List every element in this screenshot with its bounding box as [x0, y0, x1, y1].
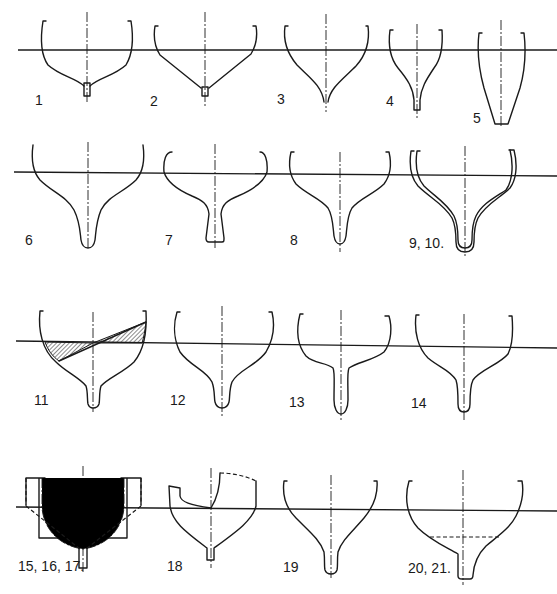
figure-label: 11: [34, 392, 49, 408]
figure-label: 1: [35, 92, 43, 108]
hull-outline: [154, 26, 257, 88]
figure-2: 2: [150, 12, 257, 109]
hull-outline: [478, 33, 525, 124]
hull-outline: [284, 26, 368, 102]
row-3: 11 12 13 14: [16, 306, 557, 420]
figure-label: 6: [25, 232, 33, 248]
figure-20-21: 20, 21.: [407, 470, 523, 585]
figure-15-16-17: 15, 16, 17.: [18, 466, 141, 574]
figure-5: 5: [473, 20, 525, 128]
hull-outline-10: [416, 150, 512, 248]
hull-outline: [164, 152, 267, 242]
figure-7: 7: [164, 144, 267, 248]
figure-8: 8: [290, 152, 391, 252]
figure-label: 2: [150, 93, 158, 109]
figure-12: 12: [170, 306, 273, 416]
figure-label: 5: [473, 110, 481, 126]
figure-label: 12: [170, 392, 186, 408]
deck-edge-dashed: [220, 473, 256, 481]
figure-11: 11: [34, 311, 146, 412]
diagram-canvas: 1 2 3 4 5: [0, 0, 557, 594]
figure-label: 7: [165, 232, 173, 248]
figure-label: 18: [167, 558, 183, 574]
waterline-row-2: [14, 172, 557, 176]
figure-14: 14: [411, 314, 513, 420]
figure-label: 19: [283, 559, 299, 575]
figure-9-10: 9, 10.: [409, 146, 516, 258]
figure-label: 8: [290, 232, 298, 248]
hull-outline: [175, 312, 274, 408]
figure-label: 14: [411, 395, 427, 411]
hull-outline: [389, 30, 442, 110]
figure-label: 4: [386, 93, 394, 109]
hull-outline: [298, 314, 391, 414]
row-4: 15, 16, 17. 18 19 20, 21.: [16, 466, 557, 585]
row-1: 1 2 3 4 5: [18, 12, 557, 128]
figure-label: 20, 21.: [408, 560, 451, 576]
figure-18: 18: [167, 468, 256, 574]
figure-label: 15, 16, 17.: [18, 558, 84, 574]
figure-19: 19: [283, 475, 377, 578]
figure-label: 3: [277, 91, 285, 107]
figure-6: 6: [25, 142, 144, 250]
figure-label: 9, 10.: [409, 235, 444, 251]
hull-sections-diagram: 1 2 3 4 5: [0, 0, 557, 594]
figure-1: 1: [35, 12, 132, 108]
row-2: 6 7 8 9, 10.: [14, 142, 557, 258]
figure-4: 4: [386, 24, 442, 120]
figure-3: 3: [277, 14, 369, 112]
figure-label: 13: [289, 394, 305, 410]
figure-13: 13: [289, 310, 391, 420]
hull-outline: [169, 473, 256, 560]
